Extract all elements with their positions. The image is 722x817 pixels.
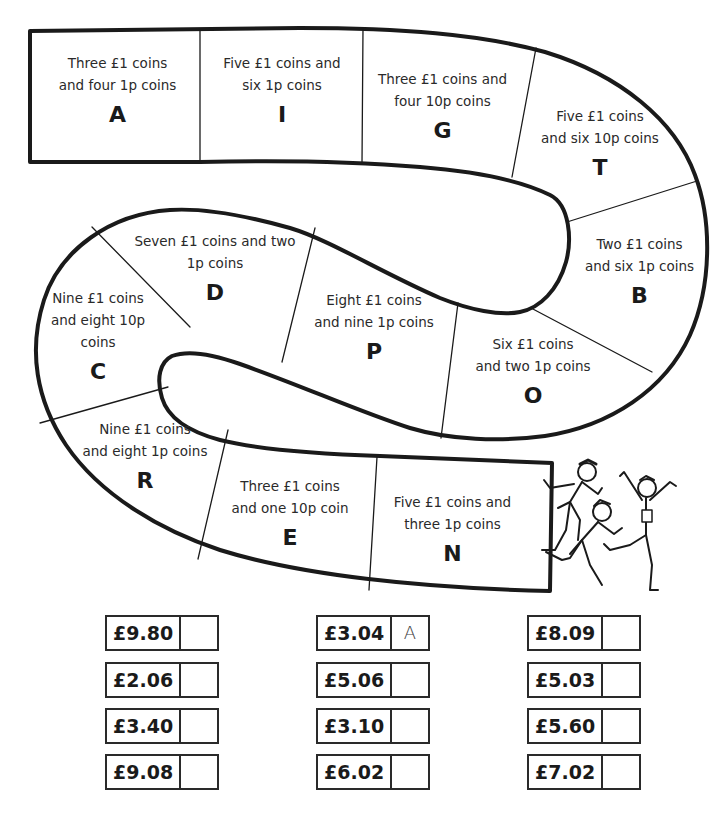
cell-o-letter: O [458,383,608,408]
answer-row: £8.09 [527,615,641,651]
answer-row: £6.02 [316,754,430,790]
cell-a: Three £1 coins and four 1p coins A [40,52,195,127]
runners-icon [530,440,722,600]
cell-d-desc-line1: Seven £1 coins and two [120,230,310,252]
answer-row: £7.02 [527,754,641,790]
amount-label: £5.06 [318,664,392,696]
answer-input[interactable] [603,617,639,649]
cell-o-desc-line2: and two 1p coins [458,355,608,377]
amount-label: £6.02 [318,756,392,788]
answer-input[interactable] [181,756,217,788]
cell-c-desc-line2: and eight 10p [42,309,154,331]
cell-t-desc-line1: Five £1 coins [530,105,670,127]
cell-r-desc-line2: and eight 1p coins [70,440,220,462]
answer-input[interactable] [392,710,428,742]
cell-o: Six £1 coins and two 1p coins O [458,333,608,408]
answer-row: £3.10 [316,708,430,744]
cell-n-desc-line1: Five £1 coins and [370,491,535,513]
cell-b-letter: B [577,283,702,308]
answer-input[interactable] [181,664,217,696]
cell-e-desc-line2: and one 10p coin [215,497,365,519]
cell-n-letter: N [370,541,535,566]
cell-e-letter: E [215,525,365,550]
answer-input[interactable] [181,710,217,742]
cell-r-letter: R [70,468,220,493]
cell-i: Five £1 coins and six 1p coins I [203,52,361,127]
cell-a-desc-line2: and four 1p coins [40,74,195,96]
cell-e-desc-line1: Three £1 coins [215,475,365,497]
cell-c-desc-line1: Nine £1 coins [42,287,154,309]
answer-input[interactable]: A [392,617,428,649]
amount-label: £2.06 [107,664,181,696]
amount-label: £5.03 [529,664,603,696]
cell-g-letter: G [365,118,520,143]
answer-input[interactable] [603,710,639,742]
amount-label: £8.09 [529,617,603,649]
cell-i-desc-line1: Five £1 coins and [203,52,361,74]
cell-t-desc-line2: and six 10p coins [530,127,670,149]
cell-p-desc-line2: and nine 1p coins [300,311,448,333]
cell-n: Five £1 coins and three 1p coins N [370,491,535,566]
cell-a-desc-line1: Three £1 coins [40,52,195,74]
cell-n-desc-line2: three 1p coins [370,513,535,535]
cell-g-desc-line2: four 10p coins [365,90,520,112]
cell-o-desc-line1: Six £1 coins [458,333,608,355]
answer-row: £5.60 [527,708,641,744]
cell-d-desc-line2: 1p coins [120,252,310,274]
amount-label: £5.60 [529,710,603,742]
cell-t-letter: T [530,155,670,180]
cell-b: Two £1 coins and six 1p coins B [577,233,702,308]
amount-label: £9.80 [107,617,181,649]
cell-t: Five £1 coins and six 10p coins T [530,105,670,180]
cell-p-letter: P [300,339,448,364]
answer-row: £2.06 [105,662,219,698]
cell-a-letter: A [40,102,195,127]
cell-b-desc-line1: Two £1 coins [577,233,702,255]
answer-row: £5.03 [527,662,641,698]
answer-input[interactable] [392,664,428,696]
cell-p-desc-line1: Eight £1 coins [300,289,448,311]
answer-input[interactable] [603,664,639,696]
answer-input[interactable] [392,756,428,788]
answer-row: £5.06 [316,662,430,698]
answer-row: £9.08 [105,754,219,790]
cell-g-desc-line1: Three £1 coins and [365,68,520,90]
cell-p: Eight £1 coins and nine 1p coins P [300,289,448,364]
amount-label: £9.08 [107,756,181,788]
cell-g: Three £1 coins and four 10p coins G [365,68,520,143]
answer-row: £9.80 [105,615,219,651]
cell-c: Nine £1 coins and eight 10p coins C [42,287,154,384]
answer-row: £3.04 A [316,615,430,651]
cell-e: Three £1 coins and one 10p coin E [215,475,365,550]
answer-input[interactable] [181,617,217,649]
amount-label: £3.04 [318,617,392,649]
cell-c-desc-line3: coins [42,331,154,353]
amount-label: £3.10 [318,710,392,742]
cell-i-letter: I [203,102,361,127]
amount-label: £3.40 [107,710,181,742]
answer-input[interactable] [603,756,639,788]
cell-r-desc-line1: Nine £1 coins [70,418,220,440]
cell-b-desc-line2: and six 1p coins [577,255,702,277]
answer-row: £3.40 [105,708,219,744]
amount-label: £7.02 [529,756,603,788]
cell-c-letter: C [42,359,154,384]
cell-i-desc-line2: six 1p coins [203,74,361,96]
cell-r: Nine £1 coins and eight 1p coins R [70,418,220,493]
